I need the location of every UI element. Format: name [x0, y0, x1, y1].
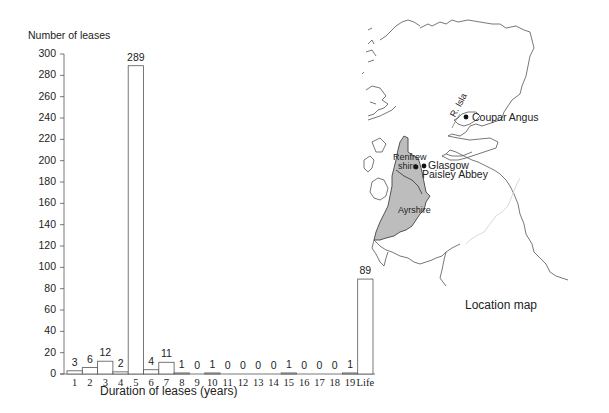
paisley-abbey-label: Paisley Abbey: [422, 168, 488, 180]
coupar-angus-label: Coupar Angus: [472, 111, 539, 123]
renfrewshire-label-2: shire: [398, 161, 418, 171]
ayrshire-label: Ayrshire: [398, 205, 431, 215]
coupar-angus-marker: [464, 115, 469, 120]
map-caption: Location map: [465, 298, 537, 312]
scotland-map-outline: [0, 0, 609, 413]
